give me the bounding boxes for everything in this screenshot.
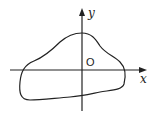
closed-curve	[20, 33, 126, 100]
x-axis-label: x	[140, 72, 147, 86]
diagram-canvas: y x O	[0, 0, 154, 117]
origin-label: O	[86, 56, 95, 68]
y-axis-arrow-icon	[79, 8, 85, 16]
y-axis-label: y	[87, 6, 95, 20]
x-axis	[10, 67, 147, 73]
